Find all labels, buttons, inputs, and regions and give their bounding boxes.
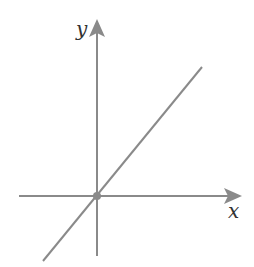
- linear-function-line: [43, 67, 202, 261]
- origin-point: [93, 192, 101, 200]
- x-axis-label: x: [228, 199, 239, 223]
- y-axis-label: y: [75, 17, 88, 41]
- coordinate-plane: y x: [0, 0, 254, 267]
